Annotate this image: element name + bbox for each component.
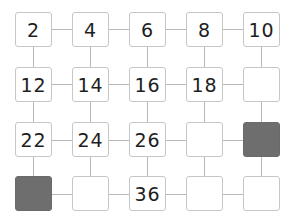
grid-cell-r1-c2: 4	[72, 12, 109, 47]
grid-cell-r3-c1: 22	[15, 122, 52, 157]
shaded-cell-r4-c1	[15, 176, 52, 211]
grid-cell-r2-c2: 14	[72, 67, 109, 102]
shaded-cell-r3-c5	[243, 122, 280, 157]
blank-cell-r4-c2[interactable]	[72, 176, 109, 211]
blank-cell-r2-c5[interactable]	[243, 67, 280, 102]
grid-cell-r3-c2: 24	[72, 122, 109, 157]
connector-col-3	[147, 30, 148, 194]
grid-cell-r1-c3: 6	[129, 12, 166, 47]
grid-cell-r4-c3: 36	[129, 176, 166, 211]
blank-cell-r4-c4[interactable]	[186, 176, 223, 211]
connector-col-5	[261, 30, 262, 194]
blank-cell-r3-c4[interactable]	[186, 122, 223, 157]
grid-cell-r1-c5: 10	[243, 12, 280, 47]
grid-cell-r1-c1: 2	[15, 12, 52, 47]
grid-cell-r3-c3: 26	[129, 122, 166, 157]
grid-cell-r1-c4: 8	[186, 12, 223, 47]
connector-col-2	[90, 30, 91, 194]
grid-cell-r2-c4: 18	[186, 67, 223, 102]
number-grid: 2 4 6 8 10 12 14 16 18 22 24 26 36	[0, 0, 295, 221]
blank-cell-r4-c5[interactable]	[243, 176, 280, 211]
connector-col-1	[33, 30, 34, 194]
grid-cell-r2-c3: 16	[129, 67, 166, 102]
grid-cell-r2-c1: 12	[15, 67, 52, 102]
connector-col-4	[204, 30, 205, 194]
